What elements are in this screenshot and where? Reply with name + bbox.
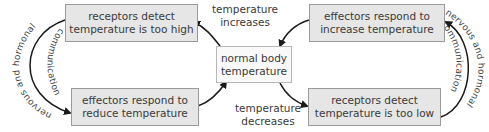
label-line: decreases: [228, 115, 308, 128]
left-inner-curve-label: communication: [45, 27, 66, 97]
node-line: temperature is too high: [69, 23, 193, 36]
label-temperature-decreases: temperature decreases: [228, 102, 308, 128]
node-line: reduce temperature: [82, 107, 187, 120]
node-effectors-increase: effectors respond to increase temperatur…: [309, 4, 445, 42]
label-temperature-increases: temperature increases: [200, 3, 290, 29]
node-line: increase temperature: [320, 23, 434, 36]
node-line: effectors respond to: [324, 10, 430, 23]
node-receptors-too-high: receptors detect temperature is too high: [65, 4, 198, 42]
node-receptors-too-low: receptors detect temperature is too low: [308, 88, 441, 126]
node-line: normal body: [221, 52, 287, 65]
node-line: effectors respond to: [82, 94, 188, 107]
node-line: receptors detect: [331, 94, 418, 107]
right-outer-curve-label: nervous and hormonal: [444, 7, 486, 109]
node-line: temperature: [221, 65, 287, 78]
node-line: temperature is too low: [315, 107, 434, 120]
node-line: receptors detect: [88, 10, 175, 23]
node-normal-body-temperature: normal body temperature: [216, 46, 292, 83]
label-line: temperature: [228, 102, 308, 115]
label-line: increases: [200, 16, 290, 29]
label-line: temperature: [200, 3, 290, 16]
arrow-effectors-to-normal: [198, 82, 226, 106]
node-effectors-reduce: effectors respond to reduce temperature: [71, 88, 199, 126]
